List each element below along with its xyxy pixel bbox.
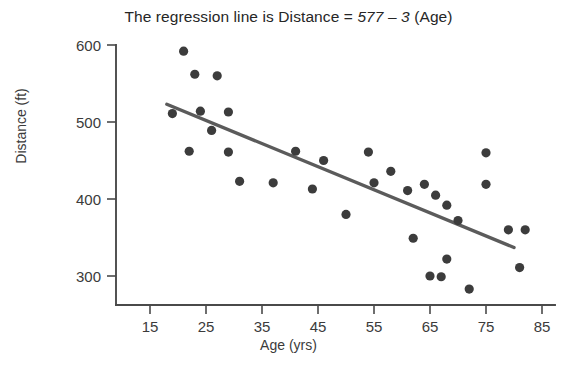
y-tick-label: 600 xyxy=(76,37,101,54)
data-point xyxy=(420,180,429,189)
data-point xyxy=(465,284,474,293)
data-point xyxy=(341,210,350,219)
data-point xyxy=(224,107,233,116)
x-tick-label: 55 xyxy=(366,318,383,335)
data-point xyxy=(369,178,378,187)
data-point xyxy=(515,263,524,272)
regression-line xyxy=(167,104,514,247)
x-tick-label: 15 xyxy=(142,318,159,335)
data-point xyxy=(481,180,490,189)
data-point xyxy=(437,272,446,281)
data-point xyxy=(196,107,205,116)
x-tick-label: 75 xyxy=(478,318,495,335)
scatter-plot-figure: The regression line is Distance = 577 – … xyxy=(0,0,577,368)
data-point xyxy=(386,167,395,176)
regression-line-group xyxy=(167,104,514,247)
data-points xyxy=(168,47,530,294)
x-tick-label: 35 xyxy=(254,318,271,335)
data-point xyxy=(224,147,233,156)
data-point xyxy=(409,234,418,243)
data-point xyxy=(235,177,244,186)
plot-canvas: 300400500600 1525354555657585 xyxy=(0,0,577,368)
data-point xyxy=(364,147,373,156)
data-point xyxy=(442,254,451,263)
x-tick-label: 65 xyxy=(422,318,439,335)
data-point xyxy=(504,225,513,234)
y-tick-label: 400 xyxy=(76,191,101,208)
data-point xyxy=(179,47,188,56)
x-axis-ticks: 1525354555657585 xyxy=(142,305,551,335)
data-point xyxy=(442,201,451,210)
data-point xyxy=(168,109,177,118)
data-point xyxy=(403,186,412,195)
y-tick-label: 300 xyxy=(76,268,101,285)
x-tick-label: 25 xyxy=(198,318,215,335)
x-axis-label: Age (yrs) xyxy=(0,337,577,353)
data-point xyxy=(269,178,278,187)
data-point xyxy=(453,216,462,225)
data-point xyxy=(291,147,300,156)
data-point xyxy=(213,71,222,80)
data-point xyxy=(431,191,440,200)
data-point xyxy=(425,271,434,280)
x-tick-label: 45 xyxy=(310,318,327,335)
data-point xyxy=(207,126,216,135)
data-point xyxy=(190,70,199,79)
x-tick-label: 85 xyxy=(534,318,551,335)
y-axis-ticks: 300400500600 xyxy=(76,37,116,285)
data-point xyxy=(481,148,490,157)
data-point xyxy=(319,156,328,165)
data-point xyxy=(185,147,194,156)
data-point xyxy=(308,184,317,193)
y-axis-label: Distance (ft) xyxy=(13,61,29,191)
data-point xyxy=(521,225,530,234)
y-tick-label: 500 xyxy=(76,114,101,131)
